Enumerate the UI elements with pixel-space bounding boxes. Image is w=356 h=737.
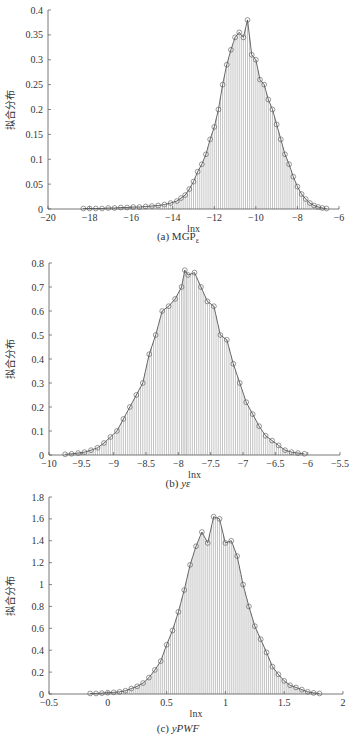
- x-tick-label: −16: [123, 212, 139, 223]
- y-tick-label: 1.8: [32, 492, 45, 503]
- y-tick-label: 0.1: [32, 426, 45, 437]
- y-tick-label: 0.8: [32, 258, 45, 269]
- x-tick-label: −8: [292, 212, 303, 223]
- x-tick-label: −10: [248, 212, 264, 223]
- caption-b-text: (b): [166, 477, 182, 489]
- y-tick-label: 1.4: [32, 535, 45, 546]
- chart-panel-c: 00.20.40.60.811.21.41.61.8−0.500.511.52l…: [0, 490, 356, 737]
- x-tick-label: −6: [334, 212, 345, 223]
- fitted-curve: [90, 517, 319, 694]
- caption-c: (c) yPWF: [0, 722, 356, 734]
- caption-a-sub: ε: [196, 236, 199, 245]
- histogram-bars: [90, 517, 317, 694]
- x-tick-label: 0: [105, 697, 110, 708]
- circle-markers: [81, 18, 329, 211]
- caption-b: (b) yε: [0, 477, 356, 489]
- y-tick-label: 0.4: [31, 5, 44, 16]
- histogram-bars: [65, 270, 302, 455]
- y-tick-label: 0.6: [32, 306, 45, 317]
- histogram-chart-a: 00.050.10.150.20.250.30.350.4−20−18−16−1…: [0, 0, 356, 245]
- x-tick-label: −7.5: [202, 458, 220, 469]
- x-tick-label: −8.5: [137, 458, 155, 469]
- x-tick-label: −20: [40, 212, 56, 223]
- y-tick-label: 0.1: [31, 154, 44, 165]
- x-tick-label: −6.5: [266, 458, 284, 469]
- y-tick-label: 1.2: [32, 557, 45, 568]
- x-tick-label: 1.5: [278, 697, 291, 708]
- x-tick-label: −9: [108, 458, 119, 469]
- x-tick-label: −5.5: [331, 458, 349, 469]
- x-tick-label: 1: [223, 697, 228, 708]
- y-tick-label: 0.7: [32, 282, 45, 293]
- caption-b-sub: yε: [181, 477, 190, 489]
- y-tick-label: 0.2: [32, 402, 45, 413]
- y-tick-label: 0.8: [32, 601, 45, 612]
- x-tick-label: −18: [82, 212, 98, 223]
- histogram-chart-b: 00.10.20.30.40.50.60.70.8−10−9.5−9−8.5−8…: [0, 245, 356, 490]
- circle-markers: [88, 514, 322, 696]
- x-tick-label: −10: [41, 458, 57, 469]
- x-tick-label: −8: [173, 458, 184, 469]
- chart-panel-b: 00.10.20.30.40.50.60.70.8−10−9.5−9−8.5−8…: [0, 245, 356, 490]
- y-tick-label: 1.6: [32, 513, 45, 524]
- x-tick-label: −7: [238, 458, 249, 469]
- y-tick-label: 0.5: [32, 330, 45, 341]
- y-tick-label: 0.4: [32, 354, 45, 365]
- x-axis-label: lnx: [190, 708, 203, 719]
- y-axis-label: 拟合分布: [4, 90, 16, 130]
- x-tick-label: −6: [302, 458, 313, 469]
- y-axis-label: 拟合分布: [4, 339, 16, 379]
- y-tick-label: 0.25: [26, 79, 44, 90]
- caption-c-sub: yPWF: [172, 722, 199, 734]
- caption-a-text: (a) MGP: [157, 230, 196, 242]
- y-tick-label: 0.3: [32, 378, 45, 389]
- histogram-bars: [83, 20, 324, 209]
- y-tick-label: 0.2: [31, 104, 44, 115]
- y-tick-label: 0.6: [32, 623, 45, 634]
- y-tick-label: 0.3: [31, 54, 44, 65]
- fitted-curve: [83, 20, 326, 209]
- y-tick-label: 1: [39, 579, 44, 590]
- histogram-chart-c: 00.20.40.60.811.21.41.61.8−0.500.511.52l…: [0, 490, 356, 737]
- chart-panel-a: 00.050.10.150.20.250.30.350.4−20−18−16−1…: [0, 0, 356, 245]
- y-tick-label: 0.35: [26, 29, 44, 40]
- x-tick-label: 2: [341, 697, 346, 708]
- y-tick-label: 0.15: [26, 129, 44, 140]
- y-axis-label: 拟合分布: [4, 576, 16, 616]
- y-tick-label: 0.05: [26, 179, 44, 190]
- x-tick-label: −12: [206, 212, 222, 223]
- y-tick-label: 0.4: [32, 645, 45, 656]
- x-tick-label: −0.5: [40, 697, 58, 708]
- x-tick-label: −9.5: [72, 458, 90, 469]
- x-tick-label: −14: [165, 212, 181, 223]
- x-tick-label: 0.5: [160, 697, 173, 708]
- caption-c-text: (c): [157, 722, 172, 734]
- y-tick-label: 0.2: [32, 667, 45, 678]
- caption-a: (a) MGPε: [0, 230, 356, 245]
